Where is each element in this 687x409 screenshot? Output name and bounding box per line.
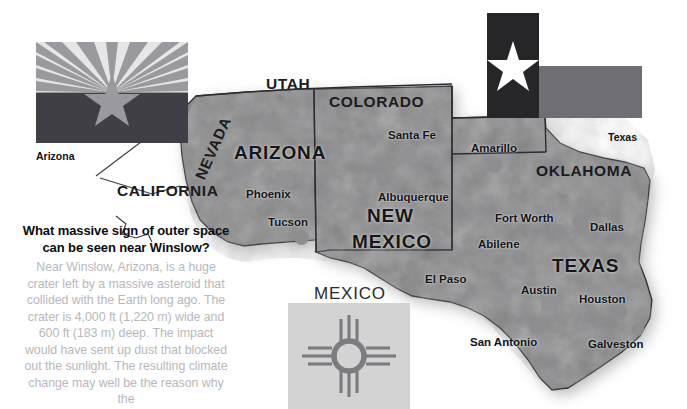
city-marker-houston — [612, 305, 627, 320]
city-label-austin: Austin — [521, 284, 557, 296]
city-marker-el-paso — [405, 260, 418, 273]
city-label-fort-worth: Fort Worth — [495, 212, 554, 224]
city-marker-galveston — [631, 323, 644, 336]
city-marker-santa-fe — [400, 146, 417, 163]
trivia-answer: Near Winslow, Arizona, is a huge crater … — [22, 259, 230, 408]
flag-arizona — [36, 42, 188, 143]
flag-caption-arizona: Arizona — [36, 150, 75, 162]
texas-lone-star-svg — [487, 13, 642, 118]
city-label-phoenix: Phoenix — [246, 188, 291, 200]
state-label-utah: UTAH — [266, 75, 310, 93]
city-marker-albuquerque — [376, 172, 391, 187]
city-marker-phoenix — [276, 170, 293, 187]
state-label-arizona: ARIZONA — [234, 142, 326, 164]
city-marker-dallas — [572, 215, 587, 230]
map-page: UTAH COLORADO NEVADA CALIFORNIA OKLAHOMA… — [0, 0, 687, 409]
flag-arizona-svg — [36, 42, 188, 143]
zia-center-fill — [337, 344, 361, 368]
city-marker-fort-worth — [551, 224, 566, 239]
city-marker-tucson — [294, 230, 309, 245]
flag-newmexico-svg — [288, 303, 410, 409]
city-marker-amarillo — [487, 158, 502, 173]
city-label-santa-fe: Santa Fe — [388, 129, 436, 141]
state-label-newmexico-line2: MEXICO — [352, 231, 432, 253]
trivia-text-block: What massive sign of outer space can be … — [22, 222, 230, 408]
state-label-texas: TEXAS — [552, 255, 619, 277]
city-label-albuquerque: Albuquerque — [378, 191, 449, 203]
state-label-colorado: COLORADO — [329, 93, 424, 111]
flag-newmexico — [288, 303, 410, 409]
state-label-oklahoma: OKLAHOMA — [536, 162, 632, 180]
city-label-tucson: Tucson — [268, 216, 308, 228]
city-label-abilene: Abilene — [478, 238, 520, 250]
city-marker-san-antonio — [529, 319, 544, 334]
texas-lone-star — [487, 41, 539, 91]
state-label-california: CALIFORNIA — [117, 182, 219, 200]
trivia-question: What massive sign of outer space can be … — [22, 222, 230, 256]
city-label-houston: Houston — [579, 293, 626, 305]
city-label-amarillo: Amarillo — [471, 142, 517, 154]
state-label-newmexico-line1: NEW — [367, 205, 414, 227]
city-label-san-antonio: San Antonio — [470, 336, 537, 348]
city-label-el-paso: El Paso — [425, 273, 467, 285]
flag-texas — [487, 13, 642, 118]
city-label-galveston: Galveston — [588, 338, 644, 350]
country-label-mexico: MEXICO — [314, 284, 386, 304]
city-label-dallas: Dallas — [590, 221, 624, 233]
city-marker-abilene — [512, 250, 527, 265]
flag-caption-texas: Texas — [608, 131, 637, 143]
